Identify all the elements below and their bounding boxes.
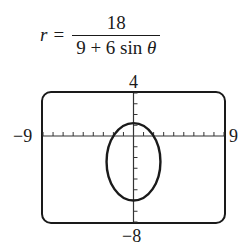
graph-screen [0, 0, 250, 251]
xmin-label: −9 [13, 127, 32, 145]
xmax-label: 9 [229, 127, 238, 145]
ymax-label: 4 [129, 73, 138, 91]
ymin-label: −8 [122, 227, 141, 245]
axes [43, 93, 224, 222]
